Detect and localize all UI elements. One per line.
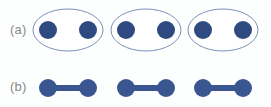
atom-circle — [234, 21, 252, 39]
panel-a — [33, 9, 258, 51]
atom-circle — [79, 79, 97, 97]
figure-canvas — [0, 0, 271, 107]
molecule-group — [117, 79, 175, 97]
atom-circle — [79, 21, 97, 39]
atom-circle — [39, 21, 57, 39]
atom-circle — [194, 21, 212, 39]
atom-circle — [157, 21, 175, 39]
atom-circle — [117, 79, 135, 97]
atom-circle — [157, 79, 175, 97]
molecule-group — [194, 79, 252, 97]
atom-circle — [117, 21, 135, 39]
molecule-group — [111, 9, 181, 51]
scientific-figure: (a) (b) — [0, 0, 271, 107]
atom-circle — [194, 79, 212, 97]
atom-circle — [39, 79, 57, 97]
molecule-group — [188, 9, 258, 51]
atom-circle — [234, 79, 252, 97]
molecule-group — [39, 79, 97, 97]
panel-b — [39, 79, 252, 97]
molecule-group — [33, 9, 103, 51]
